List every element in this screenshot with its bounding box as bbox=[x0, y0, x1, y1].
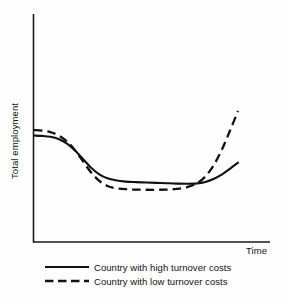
series-line-high-turnover bbox=[34, 136, 238, 184]
legend-label-low-turnover: Country with low turnover costs bbox=[90, 276, 228, 287]
chart-legend: Country with high turnover costs Country… bbox=[44, 260, 274, 288]
chart-figure: Total employment Time Country with high … bbox=[0, 0, 290, 299]
legend-label-high-turnover: Country with high turnover costs bbox=[90, 262, 231, 273]
x-axis-label: Time bbox=[246, 245, 267, 256]
legend-item-low-turnover: Country with low turnover costs bbox=[44, 274, 274, 288]
legend-item-high-turnover: Country with high turnover costs bbox=[44, 260, 274, 274]
y-axis-label-text: Total employment bbox=[9, 103, 20, 179]
y-axis-label: Total employment bbox=[7, 86, 21, 196]
legend-swatch-dashed-line-icon bbox=[44, 275, 90, 287]
legend-swatch-solid-line-icon bbox=[44, 261, 90, 273]
series-line-low-turnover bbox=[34, 111, 238, 190]
